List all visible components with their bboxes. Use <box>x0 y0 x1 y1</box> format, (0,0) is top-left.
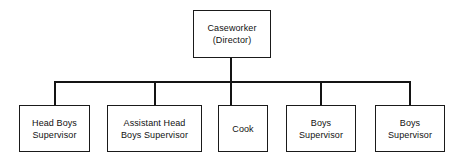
org-chart: Caseworker (Director) Head Boys Supervis… <box>0 0 462 167</box>
connector-root-stem <box>230 58 232 83</box>
connector-drop-2 <box>154 81 156 105</box>
org-node-label: Caseworker (Director) <box>204 22 259 46</box>
connector-drop-1 <box>54 81 56 105</box>
org-node-label: Boys Supervisor <box>385 117 435 141</box>
org-node-label: Assistant Head Boys Supervisor <box>118 117 191 141</box>
org-node-boys-supervisor-2[interactable]: Boys Supervisor <box>375 105 445 152</box>
org-node-label: Boys Supervisor <box>296 117 346 141</box>
connector-horizontal-bus <box>54 81 411 83</box>
org-node-label: Head Boys Supervisor <box>29 117 80 141</box>
connector-drop-4 <box>320 81 322 105</box>
org-node-head-boys-supervisor[interactable]: Head Boys Supervisor <box>19 105 90 152</box>
org-node-cook[interactable]: Cook <box>218 105 268 152</box>
connector-drop-5 <box>409 81 411 105</box>
connector-drop-3 <box>230 81 232 105</box>
org-node-boys-supervisor-1[interactable]: Boys Supervisor <box>286 105 356 152</box>
org-node-caseworker[interactable]: Caseworker (Director) <box>193 10 271 58</box>
org-node-label: Cook <box>229 123 256 135</box>
org-node-assistant-head-boys-supervisor[interactable]: Assistant Head Boys Supervisor <box>107 105 202 152</box>
